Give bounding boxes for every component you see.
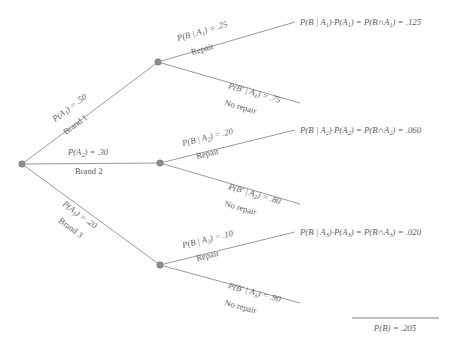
branch-2-repair-name: Repair [195, 146, 220, 161]
branch-2-norepair-name: No repair [223, 198, 257, 217]
branch-3-norepair-name: No repair [223, 297, 257, 315]
outcome-1: P(B | A1)·P(A1) = P(B∩A1) = .125 [299, 17, 422, 28]
outcome-3: P(B | A3)·P(A3) = P(B∩A3) = .020 [299, 227, 422, 238]
branch-1-norepair-name: No repair [223, 97, 257, 116]
edge-brand-2 [22, 163, 160, 164]
edge-brand-3 [22, 164, 160, 265]
branch-2-repair-prob: P(B | A2) = .20 [180, 126, 235, 149]
total-probability-label: P(B) = .205 [373, 323, 417, 333]
branch-1-repair-name: Repair [190, 41, 215, 57]
branch-1-repair-prob: P(B | A1) = .25 [175, 19, 230, 45]
branch-2-prob-label: P(A2) = .30 [67, 147, 109, 158]
branch-3-repair-prob: P(B | A3) = .10 [180, 228, 235, 251]
outcome-2: P(B | A2)·P(A2) = P(B∩A2) = .060 [299, 125, 422, 136]
branch-3-repair-name: Repair [195, 248, 220, 263]
branch-2-name: Brand 2 [75, 166, 102, 176]
probability-tree-diagram: P(A1) = .50 Brand 1 P(B | A1) = .25 Repa… [0, 0, 464, 344]
